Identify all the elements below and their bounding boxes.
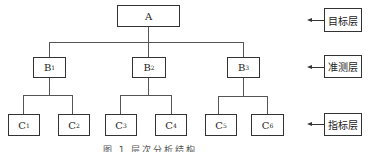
connector-c6-up bbox=[267, 96, 268, 114]
layer-criteria: 准测层 bbox=[324, 55, 362, 78]
node-c2-label: C bbox=[68, 120, 76, 131]
node-c5-sub: 5 bbox=[223, 122, 227, 129]
node-c5: C5 bbox=[205, 114, 237, 136]
node-c4-sub: 4 bbox=[173, 122, 177, 129]
connector-a-down bbox=[148, 27, 149, 42]
arrow-left-icon bbox=[311, 20, 324, 21]
node-c6-sub: 6 bbox=[269, 122, 273, 129]
connector-c5-up bbox=[218, 96, 219, 114]
connector-b2-down bbox=[148, 78, 149, 95]
connector-b3-bar bbox=[218, 96, 268, 97]
connector-b2-up bbox=[148, 42, 149, 57]
connector-b3-up bbox=[243, 42, 244, 57]
node-b1: B1 bbox=[33, 57, 66, 78]
connector-b1-bar bbox=[23, 95, 73, 96]
node-c1: C1 bbox=[8, 114, 40, 136]
node-c6: C6 bbox=[251, 114, 284, 136]
layer-indicator: 指标层 bbox=[324, 113, 362, 136]
node-c3-label: C bbox=[115, 120, 123, 131]
connector-c2-up bbox=[72, 95, 73, 114]
layer-criteria-label: 准测层 bbox=[328, 59, 358, 74]
layer-goal-label: 目标层 bbox=[328, 13, 358, 28]
arrow-left-icon bbox=[311, 124, 324, 125]
node-c4-label: C bbox=[165, 120, 173, 131]
connector-c1-up bbox=[23, 95, 24, 114]
node-b3: B3 bbox=[227, 57, 260, 78]
node-c3-sub: 3 bbox=[123, 122, 127, 129]
node-a: A bbox=[117, 5, 180, 27]
connector-c3-up bbox=[120, 95, 121, 114]
node-b2-sub: 2 bbox=[151, 64, 155, 71]
node-b3-sub: 3 bbox=[245, 64, 249, 71]
connector-c4-up bbox=[171, 95, 172, 114]
connector-b1-up bbox=[49, 42, 50, 57]
node-c1-sub: 1 bbox=[26, 122, 30, 129]
node-c3: C3 bbox=[105, 114, 137, 136]
node-b3-label: B bbox=[238, 62, 245, 73]
node-c5-label: C bbox=[215, 120, 223, 131]
node-b2: B2 bbox=[132, 57, 166, 78]
node-c6-label: C bbox=[262, 120, 270, 131]
node-c1-label: C bbox=[18, 120, 26, 131]
node-b1-label: B bbox=[44, 62, 51, 73]
node-c4: C4 bbox=[155, 114, 187, 136]
connector-b1-down bbox=[49, 78, 50, 95]
connector-b3-down bbox=[243, 78, 244, 96]
layer-indicator-label: 指标层 bbox=[328, 117, 358, 132]
node-b1-sub: 1 bbox=[51, 64, 55, 71]
node-a-label: A bbox=[145, 11, 152, 22]
connector-b2-bar bbox=[120, 95, 172, 96]
node-b2-label: B bbox=[143, 62, 150, 73]
figure-caption: 图 1 层次分析结构 bbox=[0, 143, 300, 152]
node-c2-sub: 2 bbox=[76, 122, 80, 129]
layer-goal: 目标层 bbox=[324, 8, 362, 32]
arrow-left-icon bbox=[311, 67, 324, 68]
connector-criteria-bar bbox=[49, 42, 244, 43]
node-c2: C2 bbox=[58, 114, 90, 136]
